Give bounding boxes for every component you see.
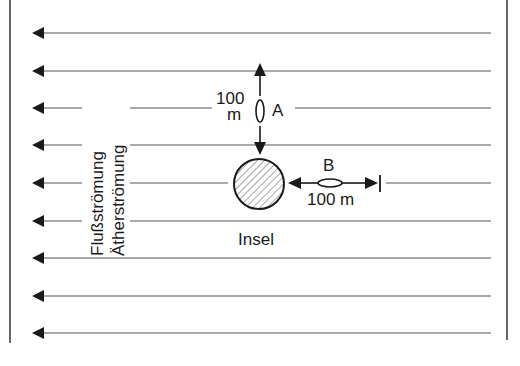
swimmer-b-boat-icon	[318, 179, 342, 187]
swimmer-a-distance-unit: m	[227, 105, 241, 124]
swimmer-a-boat-icon	[256, 100, 264, 122]
swimmer-a-label: A	[272, 101, 284, 120]
ether-flow-label: Ätherströmung	[109, 145, 128, 257]
arrow-left-icon	[32, 102, 44, 114]
river-flow-label: Flußströmung	[88, 151, 107, 256]
arrow-left-icon	[32, 27, 44, 39]
island-label: Insel	[238, 230, 274, 249]
arrow-left-icon	[32, 139, 44, 151]
arrow-left-icon	[32, 177, 44, 189]
arrow-up-icon	[254, 63, 266, 76]
swimmer-b-distance: 100 m	[307, 190, 354, 209]
river-ether-diagram: Flußströmung Ätherströmung 100 m A Insel…	[0, 0, 520, 366]
arrow-left-icon	[32, 252, 44, 264]
swimmer-a-path	[254, 63, 266, 155]
swimmer-b-label: B	[323, 156, 334, 175]
island-circle	[234, 159, 284, 209]
arrow-left-icon	[32, 65, 44, 77]
arrow-left-icon	[32, 290, 44, 302]
arrow-left-icon	[32, 327, 44, 339]
arrow-left-icon	[32, 215, 44, 227]
